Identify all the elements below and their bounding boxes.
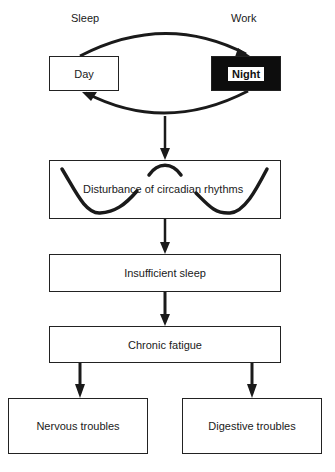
arrow-fatigue-to-nervous: [75, 363, 85, 398]
nervous-troubles-label: Nervous troubles: [36, 420, 119, 432]
day-label: Day: [74, 68, 94, 80]
circadian-label: Disturbance of circadian rhythms: [83, 183, 243, 195]
night-label: Night: [228, 67, 264, 81]
arrow-cycle-to-circadian: [160, 116, 170, 160]
digestive-troubles-box: Digestive troubles: [182, 398, 322, 454]
chronic-fatigue-label: Chronic fatigue: [128, 339, 202, 351]
digestive-troubles-label: Digestive troubles: [208, 420, 295, 432]
night-box: Night: [211, 56, 281, 91]
arrow-insufficient-to-fatigue: [160, 292, 170, 326]
day-box: Day: [49, 56, 119, 91]
cycle-arc-top: [80, 33, 246, 56]
chronic-fatigue-box: Chronic fatigue: [49, 326, 281, 363]
arrow-circadian-to-insufficient: [160, 219, 170, 254]
sleep-label: Sleep: [71, 13, 99, 24]
insufficient-sleep-label: Insufficient sleep: [124, 267, 206, 279]
insufficient-sleep-box: Insufficient sleep: [49, 254, 281, 292]
arrow-fatigue-to-digestive: [247, 363, 257, 398]
cycle-arc-bottom: [86, 91, 248, 113]
work-label: Work: [231, 13, 256, 24]
nervous-troubles-box: Nervous troubles: [8, 398, 148, 454]
